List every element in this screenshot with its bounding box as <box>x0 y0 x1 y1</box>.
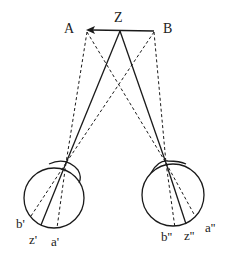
label-A: A <box>64 21 75 36</box>
left-eye <box>24 161 84 228</box>
label-a-prime: a' <box>51 234 59 249</box>
z-rays <box>41 31 186 225</box>
label-a-double-prime: a'' <box>205 220 215 235</box>
label-z-double-prime: z'' <box>184 228 194 243</box>
label-z-prime: z' <box>29 232 37 247</box>
label-Z: Z <box>114 10 123 25</box>
label-b-double-prime: b'' <box>161 229 172 244</box>
label-b-prime: b' <box>16 216 25 231</box>
label-B: B <box>163 21 172 36</box>
right-eye <box>142 161 204 226</box>
a-b-rays <box>31 32 195 228</box>
binocular-vision-diagram: A Z B b' z' a' b'' z'' a'' <box>0 0 232 261</box>
